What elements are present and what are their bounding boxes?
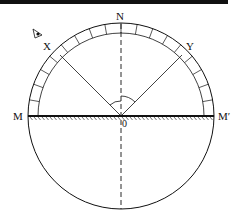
label-x: X	[43, 40, 51, 52]
label-m: M	[13, 110, 23, 122]
angle-of-incidence-arc	[110, 101, 121, 105]
label-n: N	[116, 10, 124, 22]
angle-of-reflection-arc	[121, 96, 135, 102]
label-m-prime: M′	[218, 110, 230, 122]
reflected-ray	[121, 55, 182, 116]
label-center: 0	[122, 118, 127, 129]
reflection-diagram: N X Y M M′ 0	[0, 0, 240, 222]
incident-ray	[60, 55, 121, 116]
eye-icon	[33, 29, 42, 38]
label-y: Y	[186, 40, 194, 52]
